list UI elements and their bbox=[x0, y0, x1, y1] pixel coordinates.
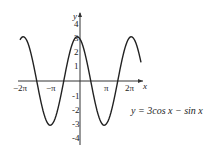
y-tick-4: 4 bbox=[74, 20, 79, 29]
x-tick-2pi: 2π bbox=[125, 84, 134, 93]
y-tick-neg1: -1 bbox=[72, 92, 80, 101]
y-tick-1: 1 bbox=[74, 62, 79, 71]
function-equation: y = 3cos x − sin x bbox=[131, 105, 203, 116]
x-axis-label: x bbox=[143, 82, 147, 91]
y-tick-3: 3 bbox=[74, 34, 79, 43]
plot-area bbox=[0, 0, 211, 152]
y-axis-arrow-icon bbox=[78, 12, 82, 17]
x-tick-pi: π bbox=[104, 84, 109, 93]
x-tick-neg-2pi: −2π bbox=[13, 84, 27, 93]
y-tick-neg4: -4 bbox=[72, 134, 80, 143]
y-tick-2: 2 bbox=[74, 48, 79, 57]
y-tick-neg2: -2 bbox=[72, 106, 80, 115]
x-tick-neg-pi: −π bbox=[46, 84, 56, 93]
y-tick-neg3: -3 bbox=[72, 120, 80, 129]
